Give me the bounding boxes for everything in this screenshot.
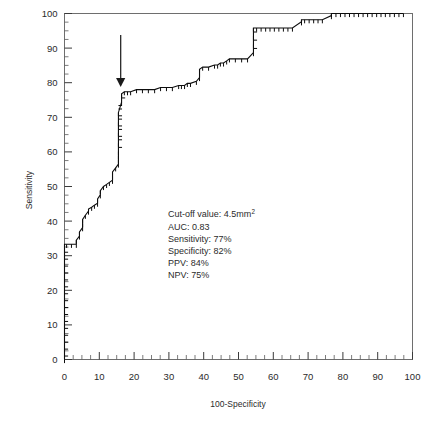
y-tick-label: 80 bbox=[47, 77, 58, 88]
y-tick-label: 10 bbox=[47, 319, 58, 330]
roc-chart-svg: 0102030405060708090100 01020304050607080… bbox=[0, 0, 429, 426]
x-axis-title: 100-Specificity bbox=[210, 399, 266, 409]
x-tick-label: 80 bbox=[338, 371, 349, 382]
y-tick-label: 90 bbox=[47, 43, 58, 54]
roc-figure: 0102030405060708090100 01020304050607080… bbox=[0, 0, 429, 426]
x-tick-label: 90 bbox=[372, 371, 383, 382]
anno-line-specificity: Specificity: 82% bbox=[168, 246, 232, 256]
y-tick-label: 70 bbox=[47, 112, 58, 123]
x-tick-label: 100 bbox=[405, 371, 421, 382]
anno-line-ppv: PPV: 84% bbox=[168, 258, 209, 268]
y-tick-label: 60 bbox=[47, 146, 58, 157]
anno-line-auc: AUC: 0.83 bbox=[168, 222, 210, 232]
y-tick-label: 100 bbox=[42, 8, 58, 19]
anno-cutoff-text: Cut-off value: 4.5mm bbox=[168, 209, 251, 219]
roc-curve-markers bbox=[65, 0, 413, 363]
y-axis-title: Sensitivity bbox=[24, 170, 34, 209]
statistics-annotation: Cut-off value: 4.5mm2 AUC: 0.83 Sensitiv… bbox=[168, 208, 255, 280]
anno-line-npv: NPV: 75% bbox=[168, 270, 209, 280]
x-tick-label: 20 bbox=[129, 371, 140, 382]
x-axis-tick-labels: 0102030405060708090100 bbox=[62, 371, 421, 382]
x-tick-label: 40 bbox=[198, 371, 209, 382]
plot-frame bbox=[65, 14, 413, 360]
anno-line-cutoff: Cut-off value: 4.5mm2 bbox=[168, 208, 255, 219]
anno-cutoff-superscript: 2 bbox=[251, 208, 255, 215]
x-axis-ticks bbox=[65, 352, 413, 360]
cutoff-arrow bbox=[116, 35, 125, 87]
x-tick-label: 70 bbox=[303, 371, 314, 382]
y-tick-label: 30 bbox=[47, 250, 58, 261]
anno-line-sensitivity: Sensitivity: 77% bbox=[168, 234, 232, 244]
arrow-head-icon bbox=[116, 78, 125, 87]
y-tick-label: 20 bbox=[47, 285, 58, 296]
x-tick-label: 0 bbox=[62, 371, 67, 382]
y-tick-label: 50 bbox=[47, 181, 58, 192]
x-tick-label: 60 bbox=[268, 371, 279, 382]
x-tick-label: 50 bbox=[233, 371, 244, 382]
x-tick-label: 30 bbox=[164, 371, 175, 382]
roc-curve-line bbox=[65, 14, 404, 360]
x-tick-label: 10 bbox=[94, 371, 105, 382]
y-tick-label: 0 bbox=[52, 354, 57, 365]
y-axis-tick-labels: 0102030405060708090100 bbox=[42, 8, 58, 365]
y-tick-label: 40 bbox=[47, 216, 58, 227]
